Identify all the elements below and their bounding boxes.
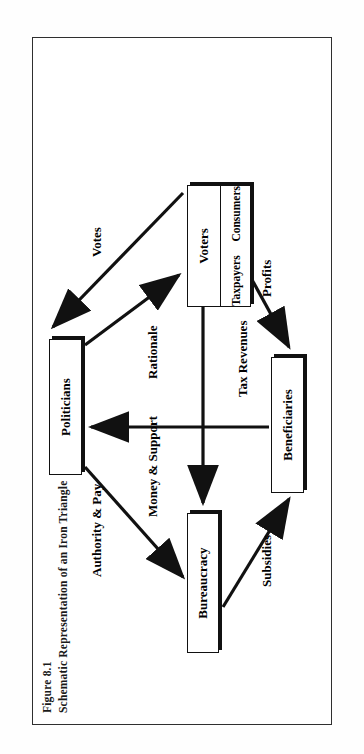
edge-label-subsidies: Subsidies: [259, 535, 275, 587]
edge-rationale: [85, 275, 179, 345]
node-consumers-label: Consumers: [230, 186, 242, 242]
edge-label-money-support: Money & Support: [145, 416, 161, 517]
edge-subsidies: [223, 499, 289, 607]
node-voters-label: Voters: [197, 228, 211, 264]
edge-label-votes: Votes: [89, 227, 105, 257]
node-politicians-label: Politicians: [59, 378, 73, 436]
figure-canvas: Figure 8.1 Schematic Representation of a…: [27, 27, 337, 727]
node-voters[interactable]: Voters: [187, 185, 221, 307]
node-bureaucracy[interactable]: Bureaucracy: [187, 513, 219, 653]
edge-label-rationale: Rationale: [145, 326, 161, 379]
node-taxpayers-label: Taxpayers: [230, 255, 242, 306]
edge-label-tax-revenues: Tax Revenues: [235, 321, 251, 397]
node-politicians[interactable]: Politicians: [49, 339, 82, 475]
edge-label-profits: Profits: [259, 260, 275, 297]
edge-label-authority-pay: Authority & Pay: [89, 484, 105, 577]
node-bureaucracy-label: Bureaucracy: [196, 547, 210, 618]
scanned-page: Figure 8.1 Schematic Representation of a…: [0, 0, 364, 754]
node-beneficiaries-label: Beneficiaries: [281, 389, 295, 460]
edge-votes: [53, 193, 183, 327]
node-beneficiaries[interactable]: Beneficiaries: [271, 357, 304, 493]
rotated-page-wrapper: Figure 8.1 Schematic Representation of a…: [0, 0, 364, 754]
node-taxpayers-consumers[interactable]: Taxpayers Consumers: [221, 185, 251, 307]
